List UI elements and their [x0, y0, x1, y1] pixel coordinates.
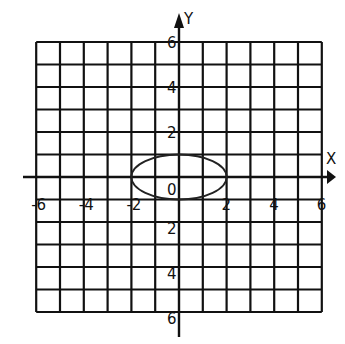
- y-axis-label: Y: [183, 10, 194, 28]
- y-tick-label: 4: [167, 79, 177, 97]
- x-tick-label: 4: [269, 196, 279, 214]
- y-axis-arrow-icon: [174, 13, 184, 28]
- y-tick-label: 4: [167, 265, 177, 283]
- y-tick-label: 2: [167, 220, 177, 238]
- coordinate-plane: XY -6-4-22466422460: [0, 0, 345, 344]
- x-tick-label: 6: [317, 196, 327, 214]
- x-tick-label: 2: [222, 196, 232, 214]
- x-tick-label: -2: [126, 196, 141, 214]
- origin-label: 0: [167, 181, 177, 199]
- y-tick-label: 2: [167, 124, 177, 142]
- x-axis-label: X: [326, 150, 336, 168]
- x-axis-arrow-icon: [327, 170, 336, 184]
- y-tick-label: 6: [167, 310, 177, 328]
- x-tick-label: -6: [31, 196, 46, 214]
- axes: XY: [23, 10, 336, 337]
- y-tick-label: 6: [167, 34, 177, 52]
- x-tick-label: -4: [79, 196, 94, 214]
